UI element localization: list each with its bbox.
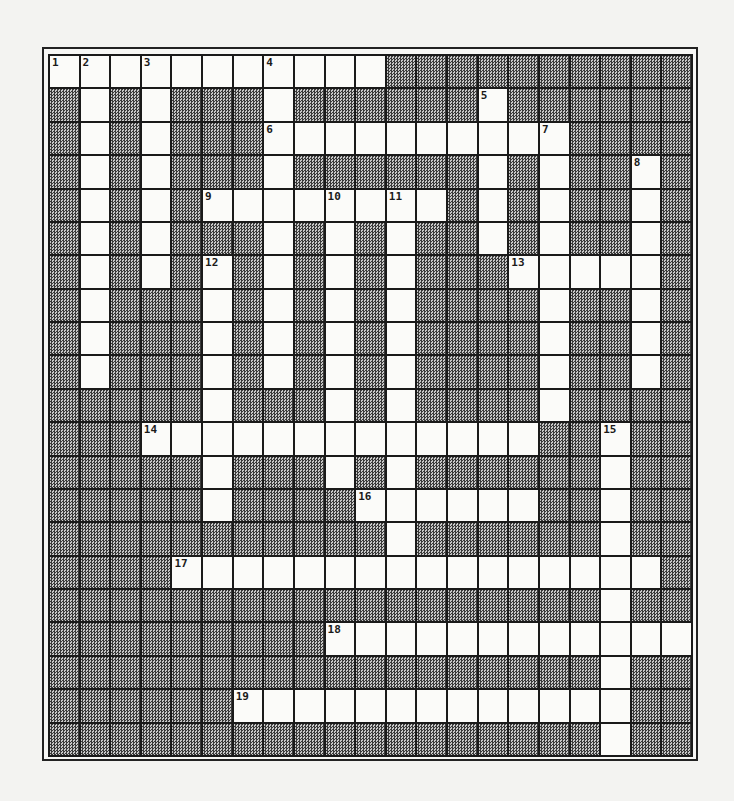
grid-cell[interactable] [387, 256, 416, 287]
grid-cell[interactable] [142, 223, 171, 254]
grid-cell[interactable] [326, 457, 355, 488]
grid-cell[interactable] [632, 557, 661, 588]
grid-cell[interactable] [387, 690, 416, 721]
grid-cell[interactable] [356, 690, 385, 721]
grid-cell[interactable] [632, 223, 661, 254]
grid-cell[interactable]: 18 [326, 623, 355, 654]
grid-cell[interactable] [417, 490, 446, 521]
grid-cell[interactable] [81, 223, 110, 254]
grid-cell[interactable] [203, 390, 232, 421]
grid-cell[interactable] [601, 256, 630, 287]
grid-cell[interactable] [601, 523, 630, 554]
grid-cell[interactable] [540, 690, 569, 721]
grid-cell[interactable] [632, 190, 661, 221]
grid-cell[interactable] [264, 323, 293, 354]
grid-cell[interactable] [479, 690, 508, 721]
grid-cell[interactable]: 9 [203, 190, 232, 221]
grid-cell[interactable]: 2 [81, 56, 110, 87]
grid-cell[interactable] [417, 690, 446, 721]
grid-cell[interactable] [295, 423, 324, 454]
grid-cell[interactable] [264, 557, 293, 588]
grid-cell[interactable] [509, 123, 538, 154]
grid-cell[interactable] [81, 156, 110, 187]
grid-cell[interactable] [387, 356, 416, 387]
grid-cell[interactable]: 11 [387, 190, 416, 221]
grid-cell[interactable] [81, 89, 110, 120]
grid-cell[interactable] [326, 290, 355, 321]
grid-cell[interactable] [356, 123, 385, 154]
grid-cell[interactable] [387, 123, 416, 154]
grid-cell[interactable] [203, 557, 232, 588]
grid-cell[interactable]: 13 [509, 256, 538, 287]
grid-cell[interactable] [387, 223, 416, 254]
grid-cell[interactable] [632, 256, 661, 287]
grid-cell[interactable] [264, 190, 293, 221]
grid-cell[interactable] [417, 123, 446, 154]
grid-cell[interactable] [203, 290, 232, 321]
grid-cell[interactable] [509, 423, 538, 454]
grid-cell[interactable] [264, 423, 293, 454]
grid-cell[interactable] [479, 557, 508, 588]
grid-cell[interactable] [326, 123, 355, 154]
grid-cell[interactable] [509, 490, 538, 521]
grid-cell[interactable] [326, 223, 355, 254]
grid-cell[interactable] [203, 323, 232, 354]
grid-cell[interactable] [417, 423, 446, 454]
grid-cell[interactable] [111, 56, 140, 87]
grid-cell[interactable] [632, 290, 661, 321]
grid-cell[interactable] [295, 56, 324, 87]
grid-cell[interactable] [264, 290, 293, 321]
grid-cell[interactable]: 3 [142, 56, 171, 87]
grid-cell[interactable] [81, 290, 110, 321]
grid-cell[interactable]: 1 [50, 56, 79, 87]
grid-cell[interactable] [387, 390, 416, 421]
grid-cell[interactable] [264, 89, 293, 120]
grid-cell[interactable] [601, 590, 630, 621]
grid-cell[interactable] [264, 356, 293, 387]
grid-cell[interactable] [448, 490, 477, 521]
grid-cell[interactable] [234, 557, 263, 588]
grid-cell[interactable] [479, 490, 508, 521]
grid-cell[interactable] [540, 557, 569, 588]
grid-cell[interactable] [540, 256, 569, 287]
grid-cell[interactable] [264, 156, 293, 187]
grid-cell[interactable] [387, 323, 416, 354]
grid-cell[interactable] [540, 356, 569, 387]
grid-cell[interactable] [571, 623, 600, 654]
grid-cell[interactable] [326, 690, 355, 721]
grid-cell[interactable] [601, 690, 630, 721]
grid-cell[interactable]: 16 [356, 490, 385, 521]
grid-cell[interactable] [142, 89, 171, 120]
grid-cell[interactable] [356, 557, 385, 588]
grid-cell[interactable] [540, 156, 569, 187]
grid-cell[interactable] [448, 123, 477, 154]
grid-cell[interactable] [326, 356, 355, 387]
grid-cell[interactable] [540, 190, 569, 221]
grid-cell[interactable] [479, 223, 508, 254]
grid-cell[interactable] [540, 290, 569, 321]
grid-cell[interactable] [540, 623, 569, 654]
grid-cell[interactable] [264, 223, 293, 254]
grid-cell[interactable] [601, 724, 630, 755]
grid-cell[interactable] [264, 690, 293, 721]
grid-cell[interactable] [387, 557, 416, 588]
grid-cell[interactable] [326, 557, 355, 588]
grid-cell[interactable] [326, 423, 355, 454]
grid-cell[interactable] [234, 56, 263, 87]
grid-cell[interactable] [81, 323, 110, 354]
grid-cell[interactable]: 17 [172, 557, 201, 588]
grid-cell[interactable]: 19 [234, 690, 263, 721]
grid-cell[interactable] [601, 623, 630, 654]
grid-cell[interactable] [326, 323, 355, 354]
grid-cell[interactable]: 4 [264, 56, 293, 87]
grid-cell[interactable]: 6 [264, 123, 293, 154]
grid-cell[interactable] [387, 290, 416, 321]
grid-cell[interactable] [632, 323, 661, 354]
grid-cell[interactable] [571, 557, 600, 588]
grid-cell[interactable] [417, 190, 446, 221]
grid-cell[interactable] [203, 423, 232, 454]
grid-cell[interactable] [356, 423, 385, 454]
grid-cell[interactable] [81, 356, 110, 387]
grid-cell[interactable]: 12 [203, 256, 232, 287]
grid-cell[interactable]: 10 [326, 190, 355, 221]
